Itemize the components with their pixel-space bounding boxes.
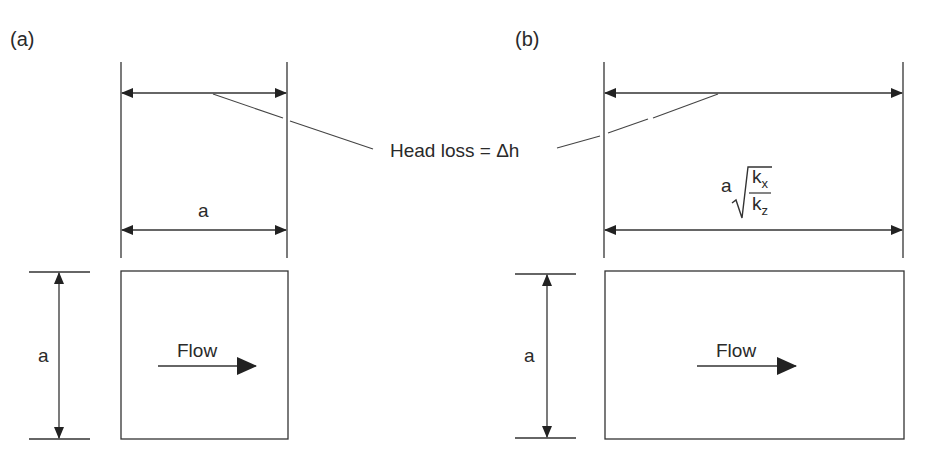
panel-a-element xyxy=(29,271,288,439)
panel-b-width-denominator: kz xyxy=(752,193,768,218)
diagram-canvas xyxy=(0,0,928,464)
denominator-k: k xyxy=(752,193,762,214)
panel-b-flow-label: Flow xyxy=(716,340,756,362)
panel-b-element xyxy=(515,271,904,439)
leader-b-segment-2 xyxy=(608,119,648,133)
numerator-subscript: x xyxy=(762,176,769,191)
panel-a-flow-label: Flow xyxy=(177,340,217,362)
panel-b-label: (b) xyxy=(515,28,539,51)
denominator-subscript: z xyxy=(762,203,769,218)
leader-b-segment-1 xyxy=(653,94,718,118)
panel-b-width-numerator: kx xyxy=(752,166,768,191)
leader-b-segment-3 xyxy=(557,136,600,148)
leader-a-segment-2 xyxy=(290,121,373,149)
panel-a-dimension-frame xyxy=(121,62,287,258)
panel-a-label: (a) xyxy=(10,28,34,51)
leader-a-segment-1 xyxy=(213,94,283,118)
panel-b-dimension-frame xyxy=(604,62,903,258)
panel-a-width-label: a xyxy=(198,200,209,222)
headloss-annotation: Head loss = Δh xyxy=(390,140,519,162)
panel-b-height-label: a xyxy=(524,345,535,367)
panel-a-height-label: a xyxy=(38,345,49,367)
panel-b-width-prefix: a xyxy=(721,175,732,197)
numerator-k: k xyxy=(752,166,762,187)
